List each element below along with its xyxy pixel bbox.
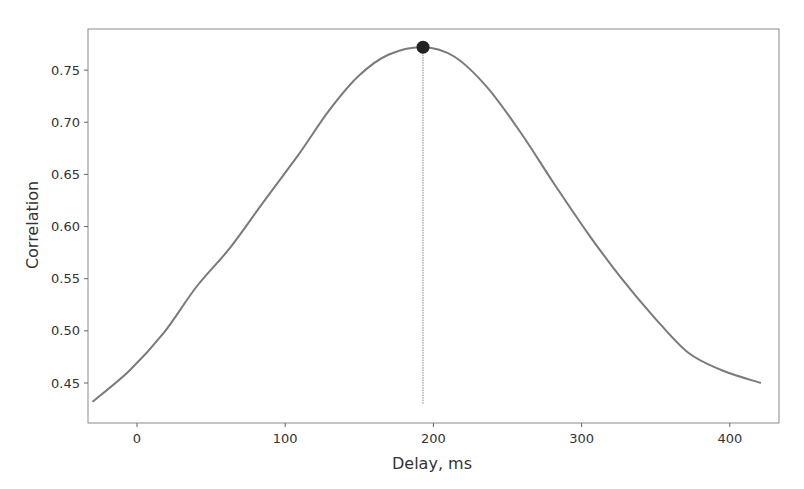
- x-tick-label: 200: [421, 431, 446, 446]
- correlation-line: [93, 47, 761, 402]
- annotation-layer: [417, 41, 430, 404]
- y-tick-label: 0.45: [51, 376, 80, 391]
- y-tick-label: 0.75: [51, 63, 80, 78]
- x-tick-label: 400: [717, 431, 742, 446]
- series-layer: [93, 47, 761, 402]
- peak-marker: [417, 41, 430, 54]
- y-tick-label: 0.60: [51, 219, 80, 234]
- x-axis-ticks: 0100200300400: [133, 423, 742, 446]
- y-tick-label: 0.70: [51, 115, 80, 130]
- plot-frame: [88, 29, 779, 423]
- x-tick-label: 0: [133, 431, 141, 446]
- y-tick-label: 0.50: [51, 323, 80, 338]
- y-axis-label: Correlation: [23, 181, 42, 269]
- y-tick-label: 0.55: [51, 271, 80, 286]
- y-tick-label: 0.65: [51, 167, 80, 182]
- y-axis-ticks: 0.450.500.550.600.650.700.75: [51, 63, 88, 391]
- x-tick-label: 300: [569, 431, 594, 446]
- correlation-delay-chart: 0.450.500.550.600.650.700.75 01002003004…: [0, 0, 804, 489]
- x-tick-label: 100: [273, 431, 298, 446]
- x-axis-label: Delay, ms: [392, 454, 472, 473]
